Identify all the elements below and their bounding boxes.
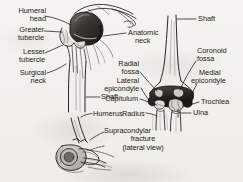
label-greater-tubercle-line2: tubercle bbox=[0, 34, 44, 42]
label-radius: Radius bbox=[122, 110, 145, 118]
label-trochlea-text: Trochlea bbox=[201, 98, 229, 106]
leader-supracondylar-1 bbox=[90, 132, 104, 140]
label-medial-epicondyle-line2: epicondyle bbox=[191, 77, 226, 85]
leader-greater-tubercle bbox=[44, 31, 62, 32]
label-ulna-text: Ulna bbox=[193, 109, 208, 117]
label-humeral-head: Humeral head bbox=[0, 7, 46, 24]
label-lesser-tubercle: Lesser tubercle bbox=[0, 48, 45, 65]
label-capitulum: Capitulum bbox=[90, 95, 138, 103]
label-lateral-epicondyle-line2: epicondyle bbox=[79, 85, 139, 93]
label-radial-fossa: Radial fossa bbox=[96, 60, 139, 77]
label-coronoid-fossa-line2: fossa bbox=[197, 55, 227, 63]
leader-radius bbox=[146, 113, 157, 116]
label-coronoid-fossa: Coronoid fossa bbox=[197, 47, 227, 64]
label-shaft-right-text: Shaft bbox=[198, 15, 215, 23]
label-anatomic-neck-line2: neck bbox=[128, 37, 158, 45]
label-ulna: Ulna bbox=[193, 109, 208, 117]
label-trochlea: Trochlea bbox=[201, 98, 229, 106]
label-shaft-right: Shaft bbox=[198, 15, 215, 23]
leader-lateral-epicondyle bbox=[141, 88, 150, 101]
label-greater-tubercle: Greater tubercle bbox=[0, 26, 44, 43]
label-anatomic-neck: Anatomic neck bbox=[128, 29, 158, 46]
label-capitulum-text: Capitulum bbox=[90, 95, 138, 103]
leader-radial-fossa bbox=[140, 72, 157, 91]
leader-humeral-head bbox=[45, 16, 71, 25]
label-surgical-neck-line2: neck bbox=[0, 77, 46, 85]
leader-humerus bbox=[81, 114, 92, 118]
label-supracondylar-fracture: Supracondylar fracture (lateral view) bbox=[104, 127, 182, 152]
label-humerus: Humerus bbox=[93, 110, 123, 118]
leader-surgical-neck bbox=[47, 64, 66, 73]
label-medial-epicondyle: Medial epicondyle bbox=[199, 69, 226, 86]
label-lateral-epicondyle: Lateral epicondyle bbox=[79, 77, 139, 94]
leader-lesser-tubercle bbox=[45, 45, 63, 53]
label-supracondylar-fracture-line3: (lateral view) bbox=[104, 144, 182, 152]
label-surgical-neck: Surgical neck bbox=[0, 69, 46, 86]
label-humerus-text: Humerus bbox=[93, 110, 123, 118]
anatomy-figure: Humeral head Greater tubercle Lesser tub… bbox=[0, 0, 243, 182]
label-radius-text: Radius bbox=[122, 110, 145, 118]
leader-anatomic-neck bbox=[103, 33, 126, 36]
leader-supracondylar-2 bbox=[90, 146, 104, 150]
label-lesser-tubercle-line2: tubercle bbox=[0, 56, 45, 64]
label-humeral-head-line2: head bbox=[0, 15, 46, 23]
